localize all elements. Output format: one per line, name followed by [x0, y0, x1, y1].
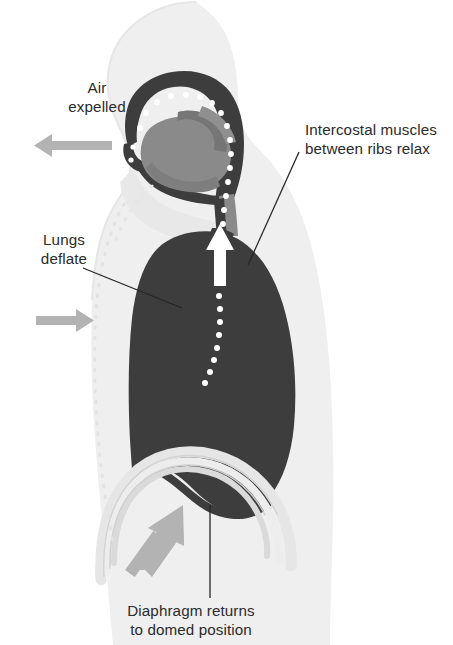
label-lungs-deflate-line2: deflate	[18, 249, 110, 268]
label-air-expelled-line1: Air	[57, 78, 137, 97]
label-lungs-deflate-line1: Lungs	[18, 230, 110, 249]
label-intercostal-line2: between ribs relax	[305, 139, 437, 158]
label-intercostal-muscles: Intercostal muscles between ribs relax	[305, 120, 437, 158]
label-air-expelled: Air expelled	[57, 78, 137, 116]
exhalation-diagram: Air expelled Intercostal muscles between…	[0, 0, 453, 645]
label-diaphragm-line1: Diaphragm returns	[76, 601, 306, 620]
label-diaphragm-returns: Diaphragm returns to domed position	[76, 601, 306, 639]
label-lungs-deflate: Lungs deflate	[18, 230, 110, 268]
label-intercostal-line1: Intercostal muscles	[305, 120, 437, 139]
label-air-expelled-line2: expelled	[57, 97, 137, 116]
air-expelled-arrow	[34, 134, 112, 157]
ribs-inward-arrow	[36, 309, 94, 332]
label-diaphragm-line2: to domed position	[76, 620, 306, 639]
